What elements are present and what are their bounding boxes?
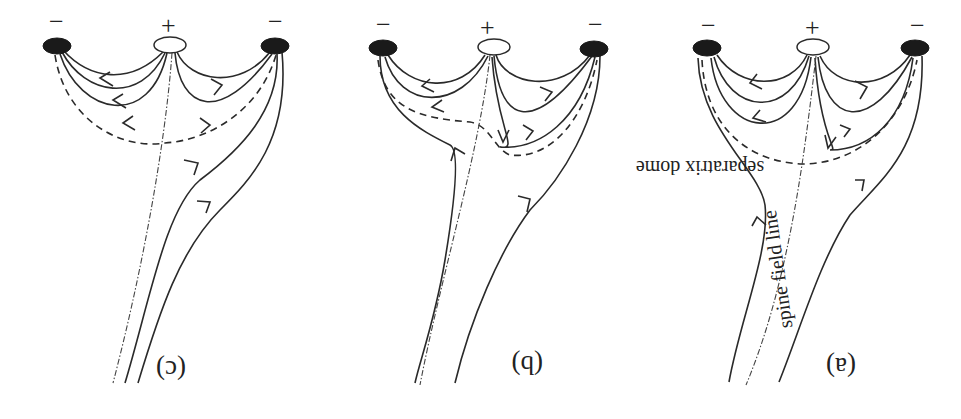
- spine-field-line: [113, 53, 172, 383]
- spine-field-line: [420, 55, 490, 385]
- field-line: [385, 56, 488, 97]
- negative-polarity-right: [261, 38, 289, 54]
- open-field-line: [125, 54, 277, 383]
- positive-sign: +: [161, 11, 176, 40]
- negative-sign-left: −: [701, 11, 716, 40]
- field-line: [62, 52, 165, 88]
- open-field-line: [455, 56, 600, 383]
- arrow-icon: [855, 180, 864, 191]
- field-line: [717, 55, 807, 81]
- negative-polarity-right: [901, 40, 929, 56]
- arrow-icon: [197, 201, 210, 213]
- arrow-icon: [840, 125, 850, 137]
- field-topology-figure: − + − (c) − + −: [0, 0, 961, 419]
- arrow-icon: [523, 125, 533, 140]
- field-line: [63, 50, 163, 75]
- negative-sign-right: −: [268, 7, 283, 36]
- arrow-icon: [753, 110, 766, 122]
- negative-polarity-left: [43, 38, 71, 54]
- negative-polarity-left: [369, 40, 397, 56]
- arrow-icon: [211, 79, 222, 95]
- panel-b: − + − (b): [369, 10, 608, 385]
- field-line: [388, 55, 485, 83]
- positive-polarity: [154, 37, 186, 53]
- positive-sign: +: [805, 13, 820, 42]
- arrow-icon: [518, 196, 530, 212]
- field-line: [818, 57, 912, 112]
- negative-sign-left: −: [49, 7, 64, 36]
- arrow-icon: [200, 118, 210, 133]
- negative-sign-left: −: [376, 10, 391, 39]
- negative-polarity-left: [693, 40, 721, 56]
- arrow-icon: [123, 116, 135, 130]
- arrow-icon: [184, 160, 198, 175]
- positive-polarity: [478, 39, 510, 55]
- arrow-icon: [855, 81, 867, 99]
- positive-sign: +: [480, 13, 495, 42]
- panel-c: − + − (c): [43, 7, 289, 385]
- open-field-line: [380, 56, 455, 383]
- panel-a: − + − (a) separatrix dome spine field li…: [636, 11, 929, 385]
- panel-label-a: (a): [826, 352, 856, 382]
- arrow-icon: [540, 87, 552, 101]
- arrow-icon: [432, 100, 444, 112]
- field-line: [60, 53, 167, 105]
- separatrix-dome-line: [378, 60, 597, 155]
- negative-polarity-right: [580, 41, 608, 57]
- separatrix-dome-label: separatrix dome: [636, 156, 764, 179]
- field-line: [711, 57, 811, 123]
- negative-sign-right: −: [910, 11, 925, 40]
- field-line: [815, 58, 913, 150]
- panel-label-b: (b): [512, 350, 543, 380]
- field-line: [714, 56, 809, 102]
- field-line: [820, 55, 910, 82]
- panel-label-c: (c): [156, 355, 186, 385]
- negative-sign-right: −: [588, 10, 603, 39]
- positive-polarity: [797, 39, 829, 55]
